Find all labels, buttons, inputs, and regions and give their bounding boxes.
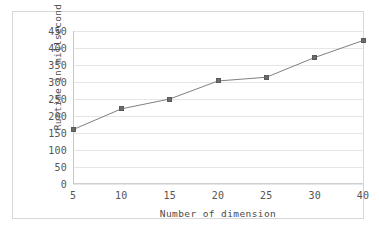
y-tick-label: 0 <box>23 179 67 190</box>
y-tick-label: 100 <box>23 145 67 156</box>
x-tick-label: 5 <box>53 190 93 201</box>
data-point-marker <box>264 75 269 80</box>
x-tick-label: 20 <box>198 190 238 201</box>
data-point-marker <box>312 55 317 60</box>
y-tick-label: 50 <box>23 162 67 173</box>
data-point-marker <box>71 127 76 132</box>
y-tick-label: 400 <box>23 43 67 54</box>
y-tick-label: 300 <box>23 77 67 88</box>
y-tick-label: 350 <box>23 60 67 71</box>
data-point-marker <box>361 38 366 43</box>
x-tick-label: 25 <box>246 190 286 201</box>
y-tick-label: 250 <box>23 94 67 105</box>
data-point-marker <box>119 106 124 111</box>
y-tick-label: 450 <box>23 26 67 37</box>
plot-inner <box>73 31 363 184</box>
y-tick-label: 200 <box>23 111 67 122</box>
series-polyline <box>73 41 363 130</box>
plot-area <box>73 31 363 184</box>
x-tick-label: 30 <box>295 190 335 201</box>
series-line <box>73 31 363 184</box>
y-axis-tick-labels: 050100150200250300350400450 <box>21 31 67 184</box>
gridline <box>73 184 363 185</box>
data-point-marker <box>167 97 172 102</box>
x-axis-tick-labels: 5101520253040 <box>73 190 363 204</box>
x-tick-label: 15 <box>150 190 190 201</box>
x-axis-title: Number of dimension <box>73 208 363 219</box>
x-tick-label: 10 <box>101 190 141 201</box>
y-tick-label: 150 <box>23 128 67 139</box>
chart-frame: Runtime in millsecond 050100150200250300… <box>12 11 364 219</box>
chart-figure: Runtime in millsecond 050100150200250300… <box>0 0 379 234</box>
data-point-marker <box>216 78 221 83</box>
x-tick-label: 40 <box>343 190 379 201</box>
